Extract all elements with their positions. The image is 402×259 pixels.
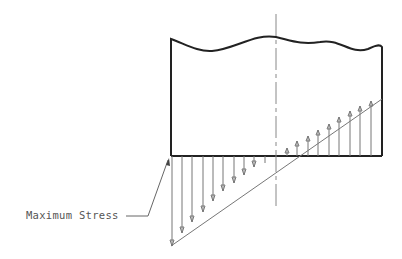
leader-arrow-icon bbox=[166, 158, 170, 166]
tension-arrows bbox=[285, 101, 373, 156]
compression-arrows bbox=[170, 156, 265, 246]
annotation-leader bbox=[126, 160, 168, 216]
maximum-stress-label: Maximum Stress bbox=[26, 209, 119, 221]
